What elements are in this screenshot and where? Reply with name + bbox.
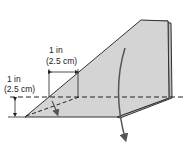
left-dimension-label-inches: 1 in	[7, 74, 21, 84]
top-dimension-label-cm: (2.5 cm)	[46, 56, 77, 66]
paper-wing-shape	[25, 20, 169, 117]
left-dimension-marker	[8, 99, 26, 117]
left-dimension-label-cm: (2.5 cm)	[4, 84, 35, 94]
top-dimension-label-inches: 1 in	[49, 45, 63, 55]
fold-diagram: 1 in (2.5 cm) 1 in (2.5 cm)	[0, 0, 183, 149]
